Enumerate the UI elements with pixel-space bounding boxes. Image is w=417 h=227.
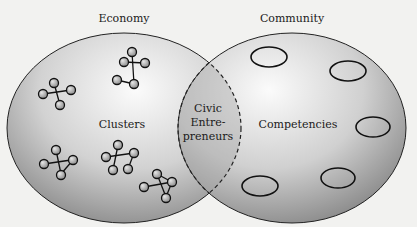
clusters-label: Clusters: [99, 118, 146, 131]
venn-diagram: Economy Community Clusters Competencies …: [0, 0, 417, 227]
competencies-label: Competencies: [259, 118, 338, 131]
intersection-label-line-3: preneurs: [183, 130, 234, 143]
community-label: Community: [260, 12, 325, 25]
intersection-label-line-2: Entre-: [190, 116, 225, 129]
economy-label: Economy: [98, 12, 150, 25]
intersection-label-line-1: Civic: [194, 102, 222, 115]
